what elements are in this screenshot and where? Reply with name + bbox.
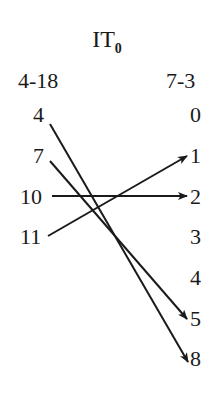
arrows-layer [0,0,214,395]
arrow-4-to-8 [50,124,188,362]
arrow-7-to-5 [50,161,187,319]
